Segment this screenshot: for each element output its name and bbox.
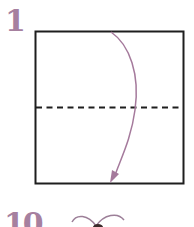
bow-shape-icon xyxy=(72,215,124,227)
origami-diagram xyxy=(0,0,194,227)
